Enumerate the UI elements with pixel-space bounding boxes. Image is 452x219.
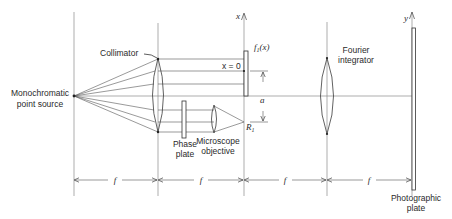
point-source-dot (73, 95, 76, 98)
fourier-label-line1: Fourier (343, 45, 370, 55)
object-transparency (244, 51, 248, 96)
optical-setup-diagram: Monochromatic point source Collimator x … (0, 0, 452, 219)
photographic-plate (412, 28, 416, 190)
photographic-label-line1: Photographic (391, 193, 442, 203)
microscope-label-line2: objective (201, 146, 235, 156)
collimator-pointer (144, 54, 157, 58)
focal-length-label-3: f (284, 175, 288, 185)
fourier-label-line2: integrator (338, 55, 374, 65)
source-label-line1: Monochromatic (11, 88, 70, 98)
source-label-line2: point source (17, 99, 64, 109)
photographic-label-line2: plate (407, 203, 426, 213)
x-zero-dot (243, 70, 245, 72)
reference-point-label: R1 (245, 122, 255, 133)
microscope-objective-lens (212, 105, 217, 133)
x-axis-label: x (235, 11, 240, 21)
microscope-label-line1: Microscope (196, 136, 240, 146)
converging-rays (214, 106, 244, 132)
phase-plate-label-line1: Phase (173, 139, 197, 149)
focal-length-label-2: f (200, 175, 204, 185)
focal-length-label-4: f (368, 175, 372, 185)
collimator-label: Collimator (100, 48, 138, 58)
phase-plate (182, 101, 186, 138)
x-zero-label: x = 0 (222, 61, 241, 71)
y-axis-label: y (403, 13, 408, 23)
focal-length-label-1: f (114, 175, 118, 185)
diverging-rays (74, 59, 158, 132)
object-function-label: f1(x) (254, 42, 270, 53)
separation-label: a (260, 95, 265, 105)
phase-plate-label-line2: plate (176, 149, 195, 159)
